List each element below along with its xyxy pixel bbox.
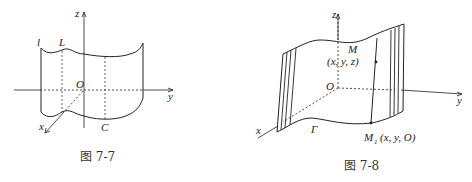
figures-canvas: z y x O l L C 图 7-7 [0, 0, 472, 182]
M1-coords-label: (x, y, O) [380, 131, 416, 144]
M1-label: M [363, 131, 374, 143]
x-label: x [38, 120, 44, 132]
x-axis [45, 112, 64, 133]
figure-7-7: z y x O l L C 图 7-7 [14, 7, 173, 164]
C-label: C [101, 121, 109, 133]
figure-caption: 图 7-8 [344, 159, 379, 173]
z-label: z [331, 8, 337, 20]
origin-label: O [76, 78, 84, 90]
gamma-label: Γ [310, 123, 318, 135]
l-label: l [37, 36, 40, 48]
figure-caption: 图 7-7 [80, 150, 115, 164]
y-axis [401, 90, 462, 94]
M-label: M [347, 43, 358, 55]
point-M1 [370, 122, 373, 125]
L-label: L [58, 36, 65, 48]
generator-line [371, 38, 377, 123]
x-axis [258, 126, 278, 138]
point-M [375, 61, 378, 64]
x-label: x [255, 124, 261, 136]
y-label: y [456, 94, 462, 106]
surface-top-curve [283, 24, 404, 54]
M-coords-label: (x, y, z) [327, 55, 359, 68]
surface-bottom-curve [41, 98, 143, 119]
surface-top-curve [41, 43, 143, 57]
z-label: z [74, 7, 80, 19]
y-label: y [167, 90, 173, 102]
origin-label: O [326, 80, 334, 92]
M1-subscript: 1 [374, 138, 378, 146]
figure-7-8: z y x O M (x, y, z) Γ M 1 (x, y, O) 图 7-… [255, 8, 462, 173]
